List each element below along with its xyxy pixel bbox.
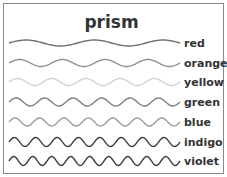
wave-green [9, 98, 180, 106]
label-yellow: yellow [184, 77, 224, 89]
wave-blue [9, 118, 180, 126]
label-orange: orange [184, 58, 227, 70]
wave-orange [9, 60, 180, 67]
wave-red [9, 40, 180, 46]
label-red: red [184, 38, 205, 50]
label-indigo: indigo [184, 137, 223, 149]
label-violet: violet [184, 156, 219, 168]
label-blue: blue [184, 117, 211, 129]
label-green: green [184, 97, 220, 109]
wave-indigo [9, 138, 180, 147]
wave-violet [9, 157, 180, 166]
wave-yellow [9, 79, 180, 86]
